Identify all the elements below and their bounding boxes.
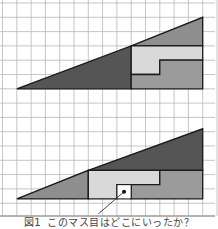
- missing-square-puzzle-figure: [0, 0, 218, 229]
- top-arrangement: [17, 17, 203, 89]
- figure-caption: 図1このマス目はどこにいったか？: [0, 217, 218, 229]
- caption-number: 図1: [24, 217, 41, 228]
- pointer-dot: [122, 190, 126, 194]
- bottom-arrangement: [17, 129, 203, 214]
- caption-text: このマス目はどこにいったか？: [47, 217, 194, 228]
